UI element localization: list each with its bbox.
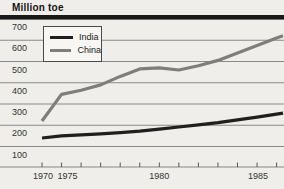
legend: India China bbox=[43, 26, 102, 62]
chart: Million toe 7006005004003002001001970197… bbox=[0, 0, 284, 189]
x-axis-label-1975: 1975 bbox=[58, 171, 78, 181]
legend-label-china: China bbox=[77, 46, 101, 55]
y-axis-label-500: 500 bbox=[12, 65, 27, 75]
x-axis-label-1985: 1985 bbox=[248, 171, 268, 181]
y-axis-label-700: 700 bbox=[12, 22, 27, 32]
top-rule bbox=[0, 15, 284, 20]
y-axis-label-200: 200 bbox=[12, 128, 27, 138]
y-axis-label-100: 100 bbox=[12, 150, 27, 160]
y-axis-label-400: 400 bbox=[12, 86, 27, 96]
x-axis-label-1980: 1980 bbox=[149, 171, 169, 181]
x-axis-label-1970: 1970 bbox=[33, 171, 53, 181]
legend-label-india: India bbox=[79, 33, 99, 42]
legend-item-china: China bbox=[50, 46, 101, 55]
china-line-swatch-icon bbox=[50, 49, 71, 53]
legend-item-india: India bbox=[50, 33, 101, 42]
india-line-swatch-icon bbox=[50, 36, 73, 40]
y-axis-label-600: 600 bbox=[12, 43, 27, 53]
y-axis-label-300: 300 bbox=[12, 107, 27, 117]
